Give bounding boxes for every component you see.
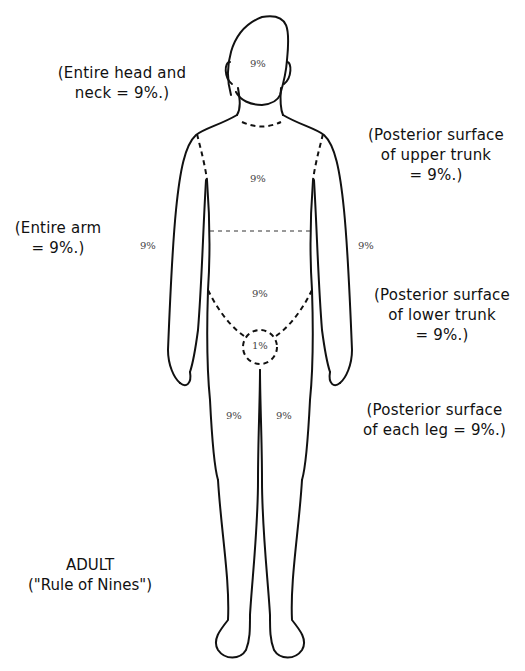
region-left-arm-value: 9% (140, 240, 156, 251)
annotation-head-line1: (Entire head and (42, 63, 202, 83)
annotation-upper-trunk: (Posterior surface of upper trunk = 9%.) (356, 125, 516, 185)
annotation-lower-trunk-line1: (Posterior surface (362, 285, 522, 305)
region-perineum-value: 1% (252, 340, 268, 351)
region-right-arm-value: 9% (358, 240, 374, 251)
annotation-lower-trunk: (Posterior surface of lower trunk = 9%.) (362, 285, 522, 345)
annotation-head-line2: neck = 9%.) (42, 83, 202, 103)
annotation-arm: (Entire arm = 9%.) (8, 218, 108, 258)
diagram-title: ADULT (20, 555, 160, 575)
diagram-title-block: ADULT ("Rule of Nines") (20, 555, 160, 595)
annotation-leg-line2: of each leg = 9%.) (352, 420, 517, 440)
region-head-value: 9% (250, 58, 266, 69)
annotation-arm-line1: (Entire arm (8, 218, 108, 238)
region-upper-trunk-value: 9% (250, 173, 266, 184)
annotation-lower-trunk-line3: = 9%.) (362, 325, 522, 345)
annotation-lower-trunk-line2: of lower trunk (362, 305, 522, 325)
diagram-subtitle: ("Rule of Nines") (20, 575, 160, 595)
annotation-leg-line1: (Posterior surface (352, 400, 517, 420)
annotation-head: (Entire head and neck = 9%.) (42, 63, 202, 103)
annotation-arm-line2: = 9%.) (8, 238, 108, 258)
annotation-upper-trunk-line3: = 9%.) (356, 165, 516, 185)
annotation-upper-trunk-line2: of upper trunk (356, 145, 516, 165)
region-right-leg-value: 9% (276, 410, 292, 421)
region-lower-trunk-value: 9% (252, 288, 268, 299)
annotation-upper-trunk-line1: (Posterior surface (356, 125, 516, 145)
region-left-leg-value: 9% (226, 410, 242, 421)
annotation-leg: (Posterior surface of each leg = 9%.) (352, 400, 517, 440)
